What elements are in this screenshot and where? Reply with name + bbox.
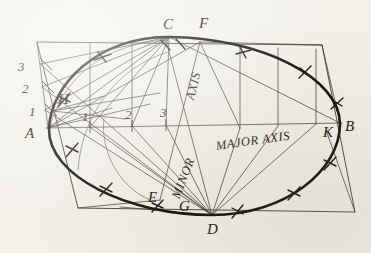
major-axis-division-3: 3 <box>160 106 167 119</box>
point-label-K: K <box>323 125 333 140</box>
point-label-B: B <box>345 119 354 134</box>
point-label-E: E <box>148 190 157 205</box>
major-axis-division-2: 2 <box>125 108 132 121</box>
point-label-H: H <box>58 92 69 107</box>
left-edge-division-3: 3 <box>18 60 25 73</box>
major-axis-division-1: 1 <box>82 110 89 123</box>
point-label-G: G <box>179 199 190 214</box>
point-label-A: A <box>25 126 34 141</box>
left-edge-division-1: 1 <box>29 105 36 118</box>
drawing-canvas: A B C D E F G H K 3 2 1 1 2 3 MAJOR AXIS… <box>0 0 371 253</box>
point-label-D: D <box>207 222 218 237</box>
ellipse-construction-figure <box>0 0 371 253</box>
point-label-F: F <box>199 16 208 31</box>
point-label-C: C <box>163 17 173 32</box>
left-edge-division-2: 2 <box>22 82 29 95</box>
